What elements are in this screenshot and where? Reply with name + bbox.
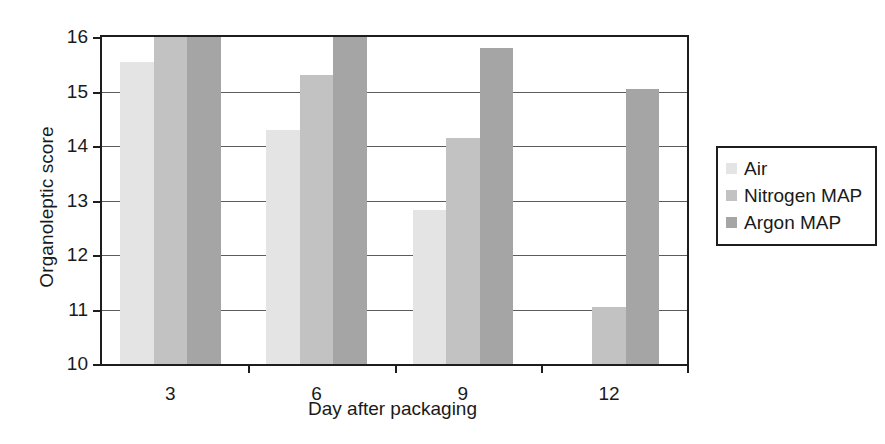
x-tick-mark xyxy=(541,364,543,373)
bar-air-day-9 xyxy=(413,210,447,364)
bar-nitrogen-map-day-6 xyxy=(300,75,334,364)
legend-label: Air xyxy=(744,159,767,178)
x-tick-mark xyxy=(248,364,250,373)
legend-label: Argon MAP xyxy=(744,213,841,232)
y-tick-label: 16 xyxy=(67,26,88,48)
bar-air-day-3 xyxy=(120,62,154,364)
bar-nitrogen-map-day-12 xyxy=(592,307,626,364)
y-tick-mark xyxy=(93,146,102,148)
y-tick-mark xyxy=(93,310,102,312)
plot-area: 10111213141516 36912 xyxy=(100,35,689,366)
bar-air-day-6 xyxy=(266,130,300,364)
y-tick-label: 14 xyxy=(67,135,88,157)
y-tick-label: 12 xyxy=(67,244,88,266)
y-tick-label: 13 xyxy=(67,190,88,212)
bar-chart-figure: Organoleptic score 10111213141516 36912 … xyxy=(0,0,885,444)
legend-swatch-icon xyxy=(726,217,737,228)
y-tick-mark xyxy=(93,364,102,366)
bar-argon-map-day-6 xyxy=(333,37,367,364)
y-tick-label: 11 xyxy=(68,299,88,321)
bar-nitrogen-map-day-9 xyxy=(446,138,480,364)
chart-legend: AirNitrogen MAPArgon MAP xyxy=(716,146,877,246)
bar-argon-map-day-3 xyxy=(187,37,221,364)
x-axis-title: Day after packaging xyxy=(100,398,685,420)
bar-argon-map-day-9 xyxy=(480,48,514,364)
legend-item-argon-map: Argon MAP xyxy=(726,209,862,236)
y-tick-mark xyxy=(93,92,102,94)
bar-argon-map-day-12 xyxy=(626,89,660,364)
x-tick-mark xyxy=(395,364,397,373)
x-tick-mark xyxy=(687,364,689,373)
legend-label: Nitrogen MAP xyxy=(744,186,862,205)
y-tick-mark xyxy=(93,37,102,39)
legend-item-nitrogen-map: Nitrogen MAP xyxy=(726,182,862,209)
y-tick-label: 15 xyxy=(67,81,88,103)
legend-swatch-icon xyxy=(726,163,737,174)
y-tick-label: 10 xyxy=(67,353,88,375)
bar-nitrogen-map-day-3 xyxy=(154,37,188,364)
legend-swatch-icon xyxy=(726,190,737,201)
y-tick-mark xyxy=(93,255,102,257)
legend-item-air: Air xyxy=(726,155,862,182)
y-tick-mark xyxy=(93,201,102,203)
y-axis-title: Organoleptic score xyxy=(36,57,58,357)
